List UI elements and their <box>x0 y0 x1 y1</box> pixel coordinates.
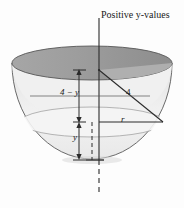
height-label: 4 − y <box>60 88 79 97</box>
apex-point <box>98 69 100 71</box>
axis-caption-label: Positive y-values <box>101 10 170 20</box>
slant-label: 4 <box>126 88 131 97</box>
diagram-canvas <box>0 0 184 208</box>
radius-label: r <box>121 115 125 124</box>
depth-label: y <box>73 133 77 142</box>
hemisphere-diagram: Positive y-values 4 − y 4 r y <box>0 0 184 208</box>
